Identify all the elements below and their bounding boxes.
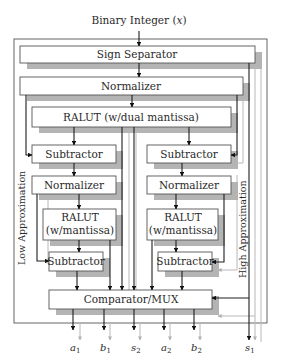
high-approximation-label: High Approximation: [237, 180, 248, 278]
svg-text:Normalizer: Normalizer: [44, 179, 105, 191]
svg-text:Sign Separator: Sign Separator: [97, 48, 179, 60]
output-b1: b1: [100, 342, 111, 355]
svg-text:Comparator/MUX: Comparator/MUX: [84, 293, 179, 305]
ralut-left-block: RALUT (w/mantissa): [43, 209, 123, 246]
svg-text:Subtractor: Subtractor: [160, 148, 219, 160]
architecture-diagram: Binary Integer (x) Sign Separator Normal…: [0, 0, 282, 364]
subtractor-right-1-block: Subtractor: [147, 145, 238, 169]
subtractor-left-1-block: Subtractor: [32, 145, 123, 169]
svg-text:Subtractor: Subtractor: [47, 255, 106, 267]
ralut-right-block: RALUT (w/mantissa): [147, 209, 225, 246]
output-s2: s2: [131, 342, 141, 355]
normalizer-left-block: Normalizer: [32, 176, 123, 200]
svg-text:RALUT (w/dual mantissa): RALUT (w/dual mantissa): [63, 111, 199, 123]
output-a2: a2: [161, 342, 171, 355]
output-b2: b2: [191, 342, 202, 355]
subtractor-left-2-block: Subtractor: [47, 252, 110, 277]
svg-text:RALUT: RALUT: [164, 211, 202, 223]
svg-text:(w/mantissa): (w/mantissa): [149, 224, 217, 236]
low-approximation-label: Low Approximation: [16, 171, 27, 265]
svg-text:RALUT: RALUT: [61, 211, 99, 223]
subtractor-right-2-block: Subtractor: [156, 252, 219, 277]
svg-text:Subtractor: Subtractor: [156, 255, 215, 267]
output-labels: a1 b1 s2 a2 b2 s1: [70, 342, 255, 355]
sign-separator-block: Sign Separator: [20, 46, 262, 69]
svg-text:(w/mantissa): (w/mantissa): [46, 224, 114, 236]
diagram-title: Binary Integer (x): [91, 14, 186, 26]
output-s1: s1: [245, 342, 255, 355]
svg-text:Subtractor: Subtractor: [45, 148, 104, 160]
normalizer-top-block: Normalizer: [20, 77, 250, 101]
svg-text:Normalizer: Normalizer: [101, 80, 162, 92]
ralut-dual-mantissa-block: RALUT (w/dual mantissa): [32, 107, 238, 133]
output-a1: a1: [70, 342, 80, 355]
svg-text:Normalizer: Normalizer: [159, 179, 220, 191]
